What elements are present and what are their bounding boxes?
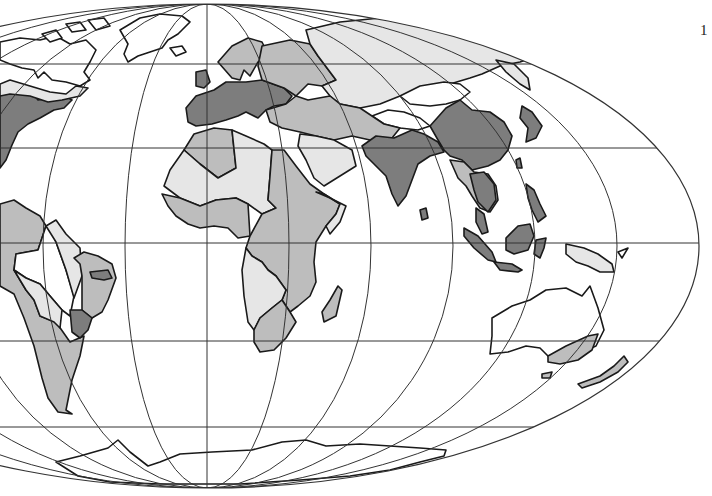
region-madagascar — [322, 286, 342, 322]
region-south-asia — [362, 130, 444, 206]
region-arabia — [298, 134, 356, 186]
world-map — [0, 0, 712, 496]
region-new-zealand — [578, 356, 628, 388]
region-east-asia — [430, 100, 512, 170]
island-solomons — [618, 248, 628, 258]
region-sulawesi — [534, 238, 546, 258]
region-new-guinea — [566, 244, 614, 272]
region-tasmania — [542, 372, 552, 378]
region-japan — [520, 106, 542, 142]
map-content — [0, 0, 712, 496]
region-brazil-east — [74, 252, 116, 318]
region-iceland — [170, 46, 186, 56]
region-sumatra — [464, 228, 496, 262]
region-borneo — [506, 224, 534, 254]
region-indochina — [470, 172, 496, 212]
arctic-island — [66, 22, 86, 32]
region-northeast-brazil-dark — [90, 270, 112, 280]
region-philippines — [526, 184, 546, 222]
region-sri-lanka — [420, 208, 428, 220]
page-number: 1 — [700, 22, 708, 39]
region-malaya — [476, 208, 488, 234]
region-uk — [196, 70, 210, 88]
region-java — [494, 262, 522, 272]
